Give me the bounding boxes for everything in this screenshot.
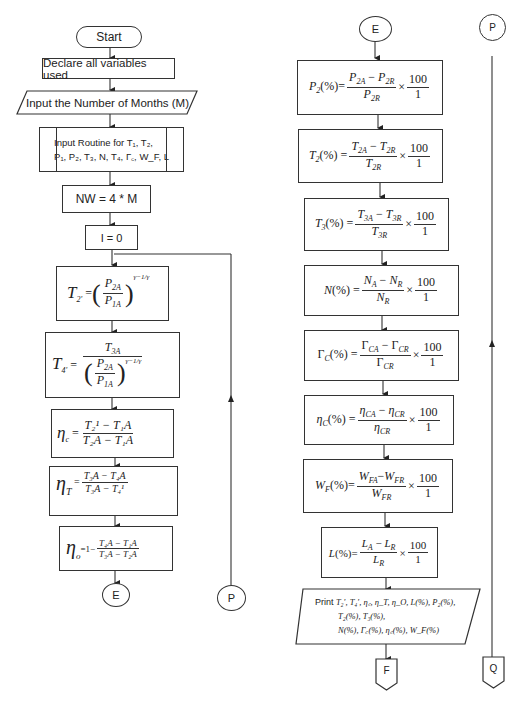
offpage-q-label: Q [490,663,498,674]
eta-t-formula-box: ηT = T₃A − T₄AT₃A − T₄¹ [49,466,178,516]
offpage-connector-q: Q [483,663,504,674]
offpage-f-label: F [383,665,389,676]
print-line1: T₂', T₄', η꜀, η_T, η_O, L(%), P₂(%), [336,597,455,607]
print-line3: N(%), Γ꜀(%), η꜀(%), W_F(%) [338,625,439,635]
input-months-label: Input the Number of Months (M) [26,97,189,109]
t3-percent-formula-box: T3(%) = T3A − T3RT3R × 1001 [304,198,449,251]
declare-variables-box: Declare all variables used [42,58,175,79]
print-line2: T₂(%), T₃(%), [338,611,385,621]
print-output-io: Print T₂', T₄', η꜀, η_T, η_O, L(%), P₂(%… [315,596,475,637]
eta-c-formula-box: ηc = T₂¹ − T₁AT₂A − T₁A [51,409,174,458]
t2-prime-formula-box: T2' = ( P2AP1A ) γ−1/γ [56,266,169,321]
declare-label: Declare all variables used [43,57,174,81]
input-months-io: Input the Number of Months (M) [20,91,195,114]
print-label: Print [315,597,334,607]
connector-p-label: P [228,592,235,604]
input-routine-line2: P₁, P₂, T₃, N, T₄, Γ꜀, W_F, L [54,150,169,164]
l-percent-formula-box: L(%)= LA − LRLR × 1001 [321,527,438,578]
start-label: Start [96,30,121,44]
wf-percent-formula-box: WF(%)= WFA−WFRWFR × 1001 [303,459,453,513]
connector-e-in: E [359,16,392,42]
t2-percent-formula-box: T2(%) = T2A − T2RT2R × 1001 [298,129,443,183]
input-routine-line1: Input Routine for T₁, T₂, [54,136,169,150]
p2-percent-formula-box: P2(%)= P2A − P2RP2R × 1001 [297,60,443,115]
eta-c-percent-formula-box: ηC(%) = ηCA − ηCRηCR × 1001 [304,395,454,445]
offpage-connector-f: F [376,665,397,676]
connector-p-loop: P [217,585,246,611]
n-percent-formula-box: N(%) = NA − NRNR × 1001 [304,265,459,316]
input-routine-subprocess: Input Routine for T₁, T₂, P₁, P₂, T₃, N,… [39,127,184,172]
connector-e-in-label: E [372,23,379,35]
subprocess-bar-right [166,128,167,171]
i-init-box: I = 0 [85,225,138,250]
start-terminator: Start [76,26,142,48]
i-init-label: I = 0 [101,232,123,244]
connector-e-out: E [102,583,130,607]
connector-e-label: E [112,589,119,601]
nw-label: NW = 4 * M [76,192,138,206]
t4-prime-formula-box: T4' = T3A ( P2AP1A ) γ−1/γ [45,332,180,398]
connector-p-in: P [479,14,506,41]
gamma-c-percent-formula-box: ΓC(%) = ΓCA − ΓCRΓCR × 1001 [304,330,459,381]
connector-p-in-label: P [489,22,496,33]
nw-assignment-box: NW = 4 * M [62,185,151,213]
eta-o-formula-box: ηo =1− T₄A − T₁AT₃A − T₂A [59,526,173,571]
subprocess-bar-left [56,128,57,171]
